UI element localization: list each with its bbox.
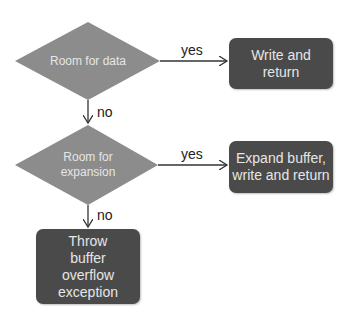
write-and-return-label: Write and return bbox=[234, 38, 328, 89]
edge-d2-no-label: no bbox=[97, 207, 113, 223]
edge-d2-yes-label: yes bbox=[181, 146, 203, 162]
throw-exception-label: Throw buffer overflow exception bbox=[50, 229, 126, 304]
edge-d1-no-label: no bbox=[97, 104, 113, 120]
edge-d1-yes-label: yes bbox=[181, 42, 203, 58]
expand-buffer-label: Expand buffer, write and return bbox=[232, 141, 330, 193]
decision1-label: Room for data bbox=[48, 44, 128, 78]
decision2-label: Room for expansion bbox=[43, 148, 133, 182]
